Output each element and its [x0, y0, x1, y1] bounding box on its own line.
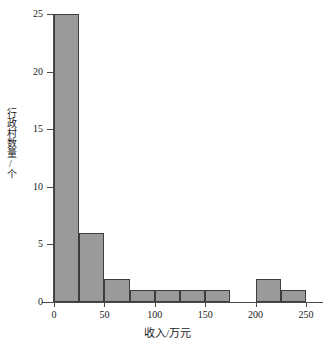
x-axis-tick-label: 150 — [198, 308, 213, 321]
y-axis-tick-label: 25 — [33, 7, 43, 20]
x-axis-tick — [256, 302, 257, 307]
x-axis-tick-label: 250 — [299, 308, 314, 321]
x-axis-tick-label: 0 — [52, 308, 57, 321]
histogram-bar — [79, 233, 104, 302]
histogram-bar — [205, 290, 230, 302]
plot-area — [54, 14, 306, 302]
y-axis-tick-label: 15 — [33, 122, 43, 135]
x-axis-tick — [104, 302, 105, 307]
histogram-chart: 行政村数量/个 0510152025 050100150200250 收入/万元 — [0, 0, 335, 350]
histogram-bar — [130, 290, 155, 302]
x-axis-line — [42, 302, 323, 303]
y-axis-tick: 10 — [47, 187, 53, 188]
histogram-bar — [104, 279, 129, 302]
x-axis-title: 收入/万元 — [0, 326, 335, 340]
y-axis-tick: 15 — [47, 129, 53, 130]
y-axis-tick: 0 — [47, 302, 53, 303]
y-axis-title: 行政村数量/个 — [2, 108, 16, 179]
x-axis-tick — [306, 302, 307, 307]
x-axis-tick-label: 50 — [99, 308, 109, 321]
y-axis-tick: 5 — [47, 244, 53, 245]
histogram-bar — [281, 290, 306, 302]
x-axis-tick — [54, 302, 55, 307]
x-axis-tick — [205, 302, 206, 307]
histogram-bar — [155, 290, 180, 302]
y-axis-tick: 25 — [47, 14, 53, 15]
x-axis-tick-label: 200 — [248, 308, 263, 321]
y-axis-tick: 20 — [47, 72, 53, 73]
y-axis-tick-label: 0 — [38, 295, 43, 308]
x-axis-tick-label: 100 — [147, 308, 162, 321]
histogram-bar — [256, 279, 281, 302]
y-axis-tick-label: 5 — [38, 237, 43, 250]
y-axis-tick-label: 10 — [33, 180, 43, 193]
x-axis-tick — [155, 302, 156, 307]
histogram-bar — [180, 290, 205, 302]
histogram-bar — [54, 14, 79, 302]
y-axis-tick-label: 20 — [33, 65, 43, 78]
